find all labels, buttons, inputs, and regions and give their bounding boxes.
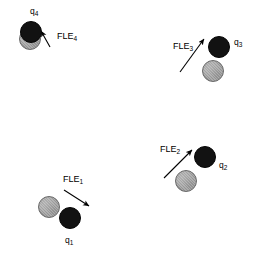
charge-node-4 (20, 21, 42, 43)
force-label-2: FLE2 (160, 144, 180, 154)
charge-label-sub-3: 3 (239, 41, 243, 48)
force-label-text-2: FLE (160, 144, 177, 154)
force-label-3: FLE3 (173, 41, 193, 51)
charge-label-1: q1 (65, 235, 73, 245)
force-label-text-1: FLE (63, 174, 80, 184)
charge-label-2: q2 (219, 160, 227, 170)
reference-node-1 (38, 196, 60, 218)
reference-node-3 (202, 60, 224, 82)
force-label-text-4: FLE (57, 31, 74, 41)
charge-node-3 (208, 36, 230, 58)
charge-label-4: q4 (30, 6, 38, 16)
force-label-sub-4: 4 (74, 35, 78, 42)
force-arrow-4 (41, 31, 50, 47)
force-diagram: q4 FLE4 q3 FLE3 q2 FLE2 q1 FLE1 (0, 0, 257, 256)
force-arrow-1 (64, 190, 89, 206)
force-label-4: FLE4 (57, 31, 77, 41)
charge-node-2 (194, 146, 216, 168)
charge-label-sub-4: 4 (35, 10, 39, 17)
charge-label-3: q3 (234, 37, 242, 47)
force-label-sub-1: 1 (80, 178, 84, 185)
force-label-sub-3: 3 (190, 45, 194, 52)
charge-node-1 (59, 207, 81, 229)
reference-node-2 (175, 170, 197, 192)
force-label-1: FLE1 (63, 174, 83, 184)
charge-label-sub-2: 2 (224, 164, 228, 171)
force-label-text-3: FLE (173, 41, 190, 51)
charge-label-sub-1: 1 (70, 239, 74, 246)
force-label-sub-2: 2 (177, 148, 181, 155)
